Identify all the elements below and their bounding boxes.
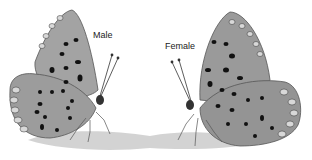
female-label: Female [165,41,195,51]
butterfly-illustration [0,0,312,160]
male-label: Male [93,30,113,40]
female-butterfly [171,12,301,146]
